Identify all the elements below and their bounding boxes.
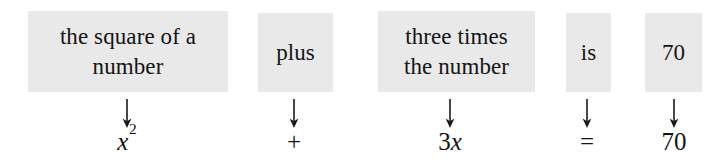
symbol-equals-sign: = xyxy=(557,129,617,165)
phrase-text: three times the number xyxy=(382,22,531,81)
symbol-plus-sign: + xyxy=(264,129,324,165)
down-arrow-icon xyxy=(442,99,458,129)
down-arrow-icon xyxy=(286,99,302,129)
translation-diagram: the square of a number plus three times … xyxy=(0,0,710,166)
phrase-line: three times xyxy=(382,22,531,51)
phrase-line: is xyxy=(570,38,607,67)
phrase-box-seventy: 70 xyxy=(645,13,702,92)
phrase-line: the number xyxy=(382,52,531,81)
phrase-box-three-times-the-number: three times the number xyxy=(378,11,535,92)
symbol-variable: x xyxy=(451,129,462,154)
symbol-seventy: 70 xyxy=(644,129,704,165)
symbol-coefficient: 3 xyxy=(438,129,451,154)
symbol-three-x: 3x xyxy=(420,129,480,165)
symbol-base: x xyxy=(117,129,128,154)
phrase-text: is xyxy=(570,38,607,67)
phrase-box-is: is xyxy=(566,13,611,92)
down-arrow-icon xyxy=(666,99,682,129)
phrase-box-plus: plus xyxy=(258,13,333,92)
phrase-text: the square of a number xyxy=(32,22,224,81)
phrase-line: the square of a xyxy=(32,22,224,51)
down-arrow-icon xyxy=(579,99,595,129)
phrase-line: 70 xyxy=(649,38,698,67)
phrase-line: number xyxy=(32,52,224,81)
phrase-text: 70 xyxy=(649,38,698,67)
symbol-x-squared: x2 xyxy=(97,129,157,165)
phrase-line: plus xyxy=(262,38,329,67)
phrase-box-square-of-a-number: the square of a number xyxy=(28,11,228,92)
phrase-text: plus xyxy=(262,38,329,67)
